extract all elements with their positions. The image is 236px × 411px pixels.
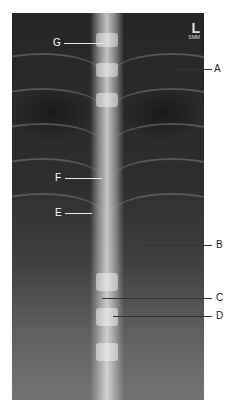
vertebra (96, 63, 118, 77)
vertebra (96, 308, 118, 326)
vertebra (96, 273, 118, 291)
label-g: G (53, 38, 61, 48)
marker-sub: SMM (188, 35, 200, 40)
label-c: C (216, 293, 223, 303)
label-e: E (55, 208, 62, 218)
vertebra (96, 343, 118, 361)
vertebra (96, 93, 118, 107)
vertebra (96, 33, 118, 47)
label-a: A (214, 64, 221, 74)
leader-line-g (64, 43, 104, 44)
label-f: F (55, 173, 61, 183)
leader-line-b (142, 245, 212, 246)
leader-line-e (65, 213, 92, 214)
label-b: B (216, 240, 223, 250)
leader-line-c (102, 298, 212, 299)
label-d: D (216, 311, 223, 321)
xray-image: L SMM (12, 13, 204, 400)
rib (112, 193, 204, 235)
leader-line-d (113, 316, 212, 317)
side-marker: L SMM (188, 21, 200, 40)
leader-line-f (65, 178, 102, 179)
leader-line-a (172, 69, 212, 70)
